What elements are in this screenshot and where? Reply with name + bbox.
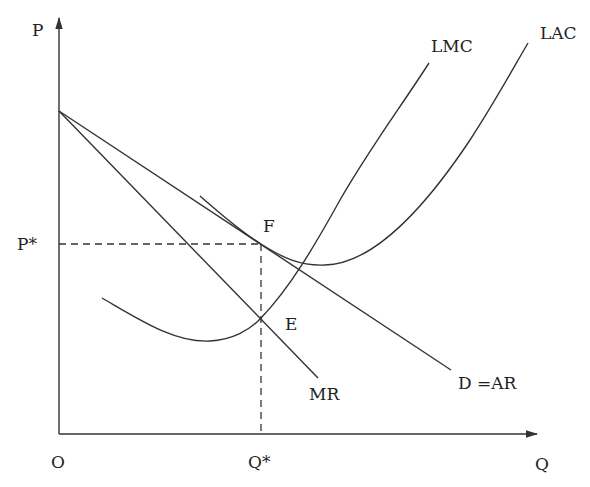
demand-label: D =AR <box>458 373 518 393</box>
lac-label: LAC <box>540 23 577 43</box>
y-axis-label: P <box>32 20 43 40</box>
point-f-label: F <box>263 216 275 236</box>
lmc-label: LMC <box>431 36 473 56</box>
mr-label: MR <box>309 384 340 404</box>
point-e-label: E <box>285 314 297 334</box>
economics-diagram: P Q O P* Q* LMC LAC MR D =AR F E <box>0 0 590 487</box>
quantity-star-label: Q* <box>248 452 271 472</box>
long-run-average-cost-curve <box>200 43 528 265</box>
price-star-label: P* <box>17 234 37 254</box>
origin-label: O <box>51 452 65 472</box>
x-axis-label: Q <box>535 454 549 474</box>
long-run-marginal-cost-curve <box>102 63 429 341</box>
